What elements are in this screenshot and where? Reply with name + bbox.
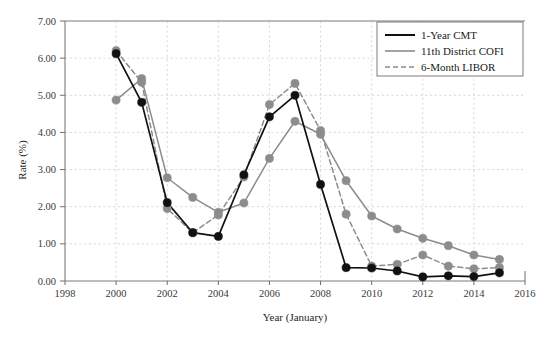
data-point-11th-district-cofi — [163, 174, 171, 182]
y-tick-label: 1.00 — [38, 238, 56, 249]
data-point-1-year-cmt — [291, 91, 299, 99]
data-point-6-month-libor — [444, 262, 452, 270]
data-point-6-month-libor — [138, 78, 146, 86]
data-point-11th-district-cofi — [470, 251, 478, 259]
data-point-1-year-cmt — [393, 267, 401, 275]
y-tick-label: 6.00 — [38, 53, 56, 64]
data-point-1-year-cmt — [163, 199, 171, 207]
data-point-6-month-libor — [214, 211, 222, 219]
legend-label-1: 1-Year CMT — [421, 29, 477, 41]
x-tick-label: 2006 — [259, 288, 280, 299]
y-axis-title: Rate (%) — [16, 140, 29, 180]
x-tick-label: 2010 — [361, 288, 382, 299]
x-tick-label: 2000 — [106, 288, 127, 299]
data-point-1-year-cmt — [419, 273, 427, 281]
y-tick-label: 2.00 — [38, 201, 56, 212]
data-point-6-month-libor — [419, 251, 427, 259]
data-point-11th-district-cofi — [393, 225, 401, 233]
x-tick-label: 1998 — [55, 288, 76, 299]
x-tick-label: 2016 — [515, 288, 536, 299]
data-point-11th-district-cofi — [342, 177, 350, 185]
data-point-1-year-cmt — [214, 232, 222, 240]
legend-label-3: 6-Month LIBOR — [421, 61, 496, 73]
data-point-1-year-cmt — [265, 113, 273, 121]
data-point-1-year-cmt — [240, 171, 248, 179]
data-point-11th-district-cofi — [112, 96, 120, 104]
data-point-6-month-libor — [265, 100, 273, 108]
data-point-1-year-cmt — [342, 264, 350, 272]
chart-legend: 1-Year CMT11th District COFI6-Month LIBO… — [377, 22, 523, 76]
y-tick-label: 0.00 — [38, 276, 56, 287]
data-point-1-year-cmt — [138, 98, 146, 106]
data-point-1-year-cmt — [112, 50, 120, 58]
rate-comparison-line-chart: 0.001.002.003.004.005.006.007.00 1998200… — [0, 0, 556, 339]
data-point-1-year-cmt — [495, 269, 503, 277]
chart-figure: 0.001.002.003.004.005.006.007.00 1998200… — [0, 0, 556, 339]
data-point-1-year-cmt — [368, 264, 376, 272]
data-point-11th-district-cofi — [368, 212, 376, 220]
data-point-1-year-cmt — [470, 272, 478, 280]
y-tick-label: 3.00 — [38, 164, 56, 175]
data-point-11th-district-cofi — [419, 234, 427, 242]
data-point-11th-district-cofi — [444, 242, 452, 250]
y-tick-label: 4.00 — [38, 127, 56, 138]
x-axis-title: Year (January) — [263, 311, 328, 324]
data-point-6-month-libor — [291, 79, 299, 87]
y-tick-label: 5.00 — [38, 90, 56, 101]
data-point-11th-district-cofi — [265, 154, 273, 162]
data-point-11th-district-cofi — [495, 255, 503, 263]
data-point-11th-district-cofi — [189, 193, 197, 201]
data-point-1-year-cmt — [189, 229, 197, 237]
x-tick-label: 2004 — [208, 288, 230, 299]
data-point-1-year-cmt — [444, 272, 452, 280]
y-tick-label: 7.00 — [38, 16, 56, 27]
x-tick-label: 2012 — [412, 288, 433, 299]
x-tick-label: 2008 — [310, 288, 331, 299]
data-point-6-month-libor — [342, 210, 350, 218]
data-point-1-year-cmt — [316, 180, 324, 188]
data-point-11th-district-cofi — [291, 117, 299, 125]
x-tick-label: 2002 — [157, 288, 178, 299]
data-point-11th-district-cofi — [240, 199, 248, 207]
data-point-6-month-libor — [470, 265, 478, 273]
x-tick-label: 2014 — [463, 288, 485, 299]
legend-label-2: 11th District COFI — [421, 45, 504, 57]
data-point-6-month-libor — [316, 126, 324, 134]
